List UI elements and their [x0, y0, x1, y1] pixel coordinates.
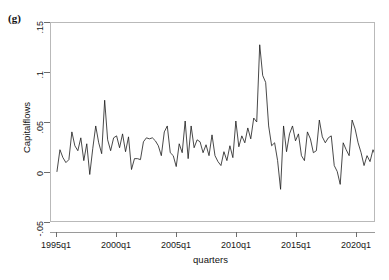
x-tick-label-2015q1: 2015q1 — [281, 240, 311, 250]
panel-label: (g) — [8, 12, 21, 24]
x-tick-mark-2000q1 — [116, 232, 117, 237]
y-tick-mark-neg005 — [44, 222, 50, 223]
figure-panel-g: (g) Capitalflows .15 .1 .05 0 -.05 1995q… — [0, 0, 389, 280]
x-tick-mark-1995q1 — [56, 232, 57, 237]
y-axis-title: Capitalflows — [21, 88, 32, 168]
x-tick-mark-2005q1 — [176, 232, 177, 237]
plot-area — [50, 22, 375, 222]
x-tick-label-2010q1: 2010q1 — [221, 240, 251, 250]
x-tick-label-2000q1: 2000q1 — [101, 240, 131, 250]
y-tick-label-neg005: -.05 — [35, 221, 45, 237]
x-tick-label-2005q1: 2005q1 — [161, 240, 191, 250]
x-axis-title: quarters — [193, 254, 228, 265]
x-tick-mark-2015q1 — [296, 232, 297, 237]
x-tick-mark-2020q1 — [356, 232, 357, 237]
series-canvas — [51, 23, 374, 221]
x-tick-label-2020q1: 2020q1 — [341, 240, 371, 250]
x-axis-line — [50, 232, 375, 233]
x-tick-mark-2010q1 — [236, 232, 237, 237]
x-tick-label-1995q1: 1995q1 — [41, 240, 71, 250]
capitalflows-series-line — [57, 45, 374, 190]
x-axis-title-wrap: quarters — [0, 254, 389, 265]
